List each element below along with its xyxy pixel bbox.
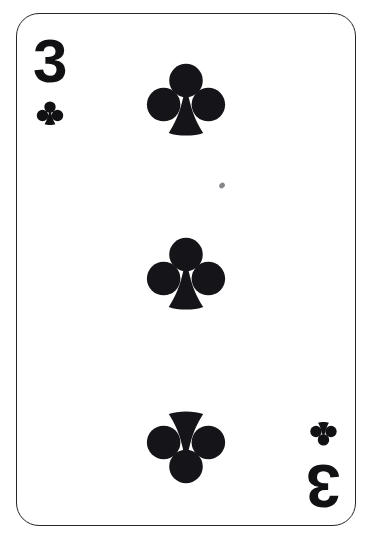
card-scene: 3	[0, 0, 372, 538]
playing-card[interactable]: 3	[16, 13, 356, 526]
club-icon	[143, 399, 229, 491]
club-icon	[143, 56, 229, 148]
club-icon	[308, 418, 338, 448]
corner-index-bottom-right: 3	[307, 418, 340, 511]
pip-column	[17, 14, 355, 525]
club-pip-top	[143, 56, 229, 148]
club-icon	[143, 230, 229, 322]
club-pip-middle	[143, 230, 229, 322]
club-pip-bottom	[143, 399, 229, 491]
index-rank-bottom-right: 3	[307, 459, 340, 511]
